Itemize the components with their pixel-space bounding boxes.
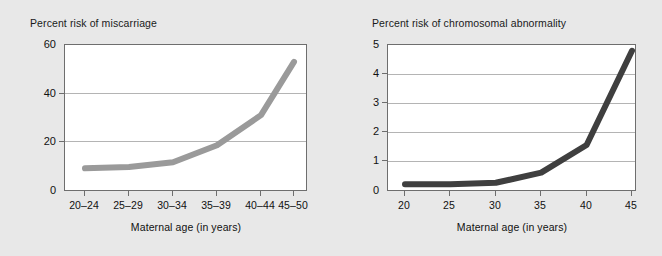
xtick-mark-45 (631, 191, 632, 196)
xtick-label-40: 40 (580, 199, 592, 211)
ytick-label-1: 1 (365, 154, 379, 166)
xtick-mark-25 (449, 191, 450, 196)
plot-area-chromosomal (387, 44, 636, 191)
xtick-label-35: 35 (534, 199, 546, 211)
xaxis-label-miscarriage: Maternal age (in years) (131, 221, 241, 233)
plot-area-miscarriage (64, 44, 307, 191)
xtick-label-25-29: 25–29 (113, 199, 143, 211)
ytick-label-60: 60 (30, 38, 56, 50)
ytick-mark-4 (382, 73, 387, 74)
series-line-miscarriage (65, 45, 306, 190)
xtick-mark-30 (495, 191, 496, 196)
chart-title-miscarriage: Percent risk of miscarriage (30, 17, 157, 29)
xtick-label-20: 20 (398, 199, 410, 211)
ytick-mark-1 (382, 160, 387, 161)
xtick-label-30-34: 30–34 (157, 199, 187, 211)
xtick-mark-1 (128, 191, 129, 196)
xtick-label-30: 30 (489, 199, 501, 211)
ytick-label-5: 5 (365, 38, 379, 50)
xtick-label-35-39: 35–39 (201, 199, 231, 211)
ytick-mark-3 (382, 102, 387, 103)
xtick-mark-4 (260, 191, 261, 196)
ytick-label-40: 40 (30, 87, 56, 99)
ytick-label-20: 20 (30, 135, 56, 147)
ytick-label-0: 0 (365, 184, 379, 196)
chart-title-chromosomal: Percent risk of chromosomal abnormality (372, 17, 566, 29)
xtick-mark-2 (172, 191, 173, 196)
ytick-mark-2 (382, 131, 387, 132)
series-line-chromosomal (388, 45, 635, 190)
ytick-label-4: 4 (365, 67, 379, 79)
xtick-mark-3 (216, 191, 217, 196)
figure-container: Percent risk of miscarriage 60 40 20 0 2… (0, 0, 662, 256)
chart-panel-chromosomal: Percent risk of chromosomal abnormality … (331, 0, 662, 256)
xaxis-label-chromosomal: Maternal age (in years) (457, 221, 567, 233)
xtick-label-25: 25 (443, 199, 455, 211)
xtick-label-45-50: 45–50 (278, 199, 308, 211)
xtick-label-40-44: 40–44 (245, 199, 275, 211)
xtick-mark-0 (84, 191, 85, 196)
ytick-label-3: 3 (365, 96, 379, 108)
xtick-label-45: 45 (625, 199, 637, 211)
xtick-mark-20 (404, 191, 405, 196)
ytick-mark-40 (59, 93, 64, 94)
xtick-mark-40 (586, 191, 587, 196)
chart-panel-miscarriage: Percent risk of miscarriage 60 40 20 0 2… (0, 0, 331, 256)
ytick-label-0: 0 (30, 184, 56, 196)
ytick-mark-20 (59, 141, 64, 142)
xtick-label-20-24: 20–24 (69, 199, 99, 211)
xtick-mark-35 (540, 191, 541, 196)
xtick-mark-5 (293, 191, 294, 196)
ytick-label-2: 2 (365, 125, 379, 137)
